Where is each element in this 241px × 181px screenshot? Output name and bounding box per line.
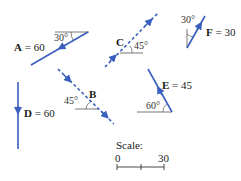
scale-bar: Scale: 0 30 (115, 139, 170, 170)
scale-start-label: 0 (115, 152, 121, 164)
vector-c-label: C (116, 36, 124, 48)
scale-end-label: 30 (158, 152, 170, 164)
angle-arc-b (86, 102, 92, 110)
angle-label-a: 30° (54, 32, 68, 43)
vector-a: 30° A = 60 (14, 32, 89, 65)
vector-b-arrow-icon (64, 75, 69, 80)
angle-label-e: 60° (146, 100, 160, 111)
vector-f-arrow-icon (197, 25, 200, 30)
vector-d-label: D = 60 (24, 107, 55, 119)
vector-c-arrow-icon (145, 21, 150, 26)
vector-c: C 45° (105, 13, 158, 67)
vector-b-label: B (89, 88, 97, 100)
vector-f-label: F = 30 (206, 26, 236, 38)
angle-label-f: 30° (181, 14, 195, 25)
angle-arc-a (71, 32, 74, 41)
vector-a-arrow-icon (61, 45, 66, 48)
angle-label-b: 45° (64, 95, 78, 106)
vector-e: 60° E = 45 (137, 69, 193, 112)
angle-arc-c (130, 46, 132, 53)
vector-a-label: A = 60 (14, 41, 45, 53)
angle-arc-e (163, 104, 168, 112)
scale-title: Scale: (116, 139, 143, 151)
vector-b: B 45° (58, 69, 114, 124)
vector-b-arrow2-icon (101, 111, 106, 116)
vector-f: 30° F = 30 (181, 14, 236, 48)
vector-diagram: 30° A = 60 C 45° 30° F = 30 B 45° D = 60 (0, 0, 241, 181)
angle-arc-f (187, 34, 193, 37)
vector-e-label: E = 45 (162, 79, 193, 91)
angle-label-c: 45° (134, 40, 148, 51)
vector-d: D = 60 (18, 82, 55, 149)
